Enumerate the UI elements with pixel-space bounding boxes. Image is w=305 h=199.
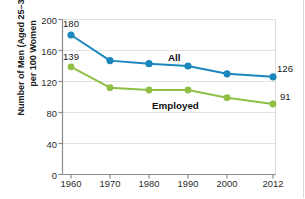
employed-line bbox=[71, 67, 273, 104]
value-label-all-2012: 126 bbox=[277, 63, 293, 74]
series-label-employed: Employed bbox=[152, 100, 199, 111]
x-axis-ticks bbox=[71, 175, 273, 179]
gridlines-horizontal bbox=[63, 20, 276, 144]
employed-point-1970 bbox=[107, 84, 114, 91]
all-point-2012 bbox=[269, 73, 276, 80]
employed-point-2012 bbox=[270, 101, 277, 108]
all-point-2000 bbox=[223, 70, 230, 77]
employed-point-1980 bbox=[146, 87, 153, 94]
all-point-1960 bbox=[67, 31, 74, 38]
employed-point-2000 bbox=[224, 94, 231, 101]
plot-area-frame bbox=[63, 20, 276, 175]
value-label-all-1960: 180 bbox=[63, 18, 79, 29]
chart-figure: Number of Men (Aged 25–34) per 100 Women… bbox=[0, 0, 305, 199]
all-point-1970 bbox=[106, 57, 113, 64]
employed-point-1960 bbox=[68, 63, 75, 70]
all-point-1980 bbox=[145, 60, 152, 67]
series-label-all: All bbox=[168, 52, 181, 63]
value-label-employed-2012: 91 bbox=[280, 91, 291, 102]
all-point-1990 bbox=[184, 62, 191, 69]
employed-point-1990 bbox=[185, 87, 192, 94]
value-label-employed-1960: 139 bbox=[63, 51, 79, 62]
